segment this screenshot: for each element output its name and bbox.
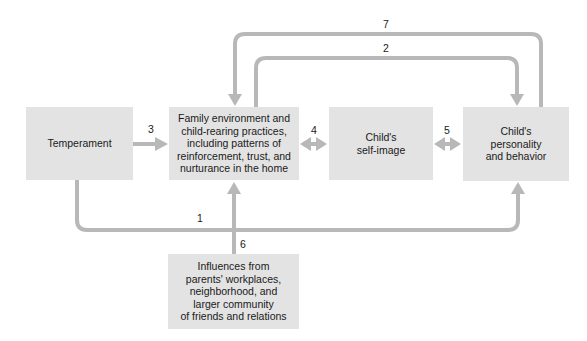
node-temperament: Temperament (26, 107, 133, 180)
edge-1-label: 1 (197, 212, 203, 224)
edge-4-arrowhead-left (300, 137, 311, 151)
edge-4-label: 4 (311, 124, 317, 136)
edge-7-arrowhead (228, 94, 242, 106)
edge-1-line (77, 180, 518, 230)
edge-2-line (256, 58, 517, 107)
node-external-influences: Influences from parents' workplaces, nei… (168, 254, 299, 329)
edge-2-label: 2 (383, 42, 389, 54)
node-family-environment: Family environment and child-rearing pra… (169, 107, 299, 180)
edge-3-label: 3 (148, 123, 154, 135)
node-self-image: Child's self-image (329, 107, 433, 180)
edge-6-arrowhead (227, 182, 241, 194)
edge-5-label: 5 (444, 124, 450, 136)
edge-5-arrowhead-right (450, 137, 461, 151)
edge-3-arrowhead (155, 137, 168, 151)
edge-2-arrowhead (510, 94, 524, 106)
edge-6-label: 6 (240, 238, 246, 250)
node-personality-behavior: Child's personality and behavior (463, 107, 569, 181)
edge-1-arrowhead (511, 182, 525, 194)
edge-5-arrowhead-left (434, 137, 445, 151)
edge-4-arrowhead-right (316, 137, 327, 151)
edge-7-label: 7 (383, 18, 389, 30)
